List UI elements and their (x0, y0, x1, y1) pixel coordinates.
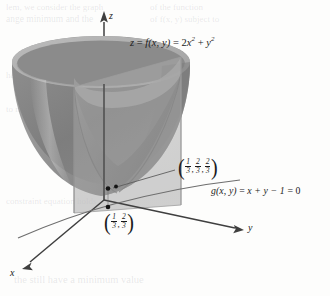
point-in-plane-label: ( 1 3 , 2 3 ) (104, 213, 134, 232)
tuple3-close-paren: ) (211, 157, 218, 175)
constraint-eq-equals-1: = (237, 185, 248, 196)
tuple3-frac3-denominator: 3 (205, 167, 211, 175)
y-axis-label: y (248, 223, 252, 233)
tuple3-fraction-1: 1 3 (185, 158, 192, 175)
tuple2-frac2-numerator: 2 (121, 213, 127, 221)
constraint-eq-equals-2: = (285, 185, 296, 196)
surface-eq-plus: + (195, 37, 206, 48)
x-axis-label: x (10, 268, 14, 278)
tuple2-frac1-denominator: 3 (111, 222, 117, 230)
point-on-surface-label: ( 1 3 , 2 3 , 2 3 ) (178, 158, 218, 177)
tuple3-frac2-denominator: 3 (195, 167, 201, 175)
surface-eq-equals-1: = (134, 37, 145, 48)
x-axis-arrowhead (22, 262, 33, 270)
lagrange-multiplier-figure: lem, we consider the graph of the functi… (0, 0, 330, 296)
surface-equation-label: z=f(x, y)=2x2+y2 (130, 36, 214, 48)
tuple3-fraction-2: 2 3 (194, 158, 201, 175)
constraint-equation-label: g(x, y)=x + y − 1=0 (211, 186, 301, 196)
tuple3-open-paren: ( (178, 157, 185, 175)
tuple3-frac3-numerator: 2 (205, 158, 211, 166)
surface-eq-term2-exponent: 2 (211, 35, 215, 42)
constraint-eq-function: g(x, y) (211, 185, 237, 196)
tuple2-frac2-denominator: 3 (121, 222, 127, 230)
tuple3-fraction-3: 2 3 (204, 158, 211, 175)
point-on-surface-dot (106, 186, 111, 191)
point-on-surface-dot-shadow (114, 185, 118, 189)
surface-eq-equals-2: = (170, 37, 181, 48)
tuple2-fraction-2: 2 3 (120, 213, 127, 230)
z-axis-label: z (109, 11, 113, 21)
tuple3-frac2-numerator: 2 (195, 158, 201, 166)
constraint-eq-expression: x + y − 1 (247, 185, 285, 196)
z-axis-arrowhead (100, 11, 108, 23)
tuple2-frac1-numerator: 1 (111, 213, 117, 221)
surface-eq-function: f(x, y) (145, 37, 170, 48)
constraint-eq-rhs: 0 (296, 185, 301, 196)
tuple3-frac1-numerator: 1 (185, 158, 191, 166)
tuple3-frac1-denominator: 3 (185, 167, 191, 175)
tuple2-fraction-1: 1 3 (111, 213, 118, 230)
tuple2-close-paren: ) (127, 212, 134, 230)
tuple2-open-paren: ( (104, 212, 111, 230)
y-axis-arrowhead (233, 225, 244, 233)
